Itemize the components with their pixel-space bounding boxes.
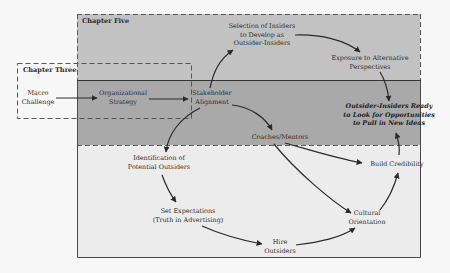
diagram-lines — [0, 0, 450, 273]
arrow-stakeholder-to-selection — [210, 50, 233, 88]
arrow-stakeholder-to-coaches — [232, 105, 272, 130]
arrow-cultural-to-credibility — [380, 173, 398, 210]
arrow-coaches-to-cultural — [274, 144, 351, 213]
diagram-canvas: Chapter Five Chapter Three Macro Challen… — [0, 0, 450, 273]
node-stakeholder-alignment: Stakeholder Alignment — [192, 89, 231, 106]
arrow-selection-to-exposure — [295, 35, 360, 52]
node-identification-of-potential-outsiders: Identification of Potential Outsiders — [128, 154, 190, 171]
node-selection-of-insiders: Selection of Insiders to Develop as Outs… — [229, 22, 296, 48]
node-organizational-strategy: Organizational Strategy — [99, 89, 147, 106]
arrow-expectations-to-hire — [202, 226, 262, 244]
node-set-expectations: Set Expectations (Truth in Advertising) — [153, 207, 224, 224]
node-hire-outsiders: Hire Outsiders — [264, 238, 295, 255]
chapter-three-title: Chapter Three — [23, 66, 77, 74]
node-exposure-to-alternative-perspectives: Exposure to Alternative Perspectives — [332, 54, 409, 71]
arrow-exposure-to-ready — [380, 72, 389, 101]
node-macro-challenge: Macro Challenge — [22, 89, 55, 106]
arrow-identification-to-expectations — [162, 175, 176, 202]
node-cultural-orientation: Cultural Orientation — [348, 209, 385, 226]
node-build-credibility: Build Credibility — [370, 160, 423, 169]
arrow-credibility-to-ready — [396, 133, 399, 155]
chapter-five-title: Chapter Five — [82, 17, 129, 25]
arrow-hire-to-cultural — [296, 228, 355, 245]
node-outsider-insiders-ready: Outsider-Insiders Ready to Look for Oppo… — [343, 102, 435, 128]
node-coaches-mentors: Coaches/Mentors — [252, 133, 309, 142]
